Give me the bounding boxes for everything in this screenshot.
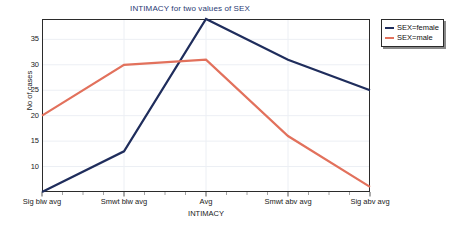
y-tick-label: 10 xyxy=(13,162,39,171)
y-tick-label: 15 xyxy=(13,136,39,145)
x-axis-ticks: Sig blw avgSmwt blw avgAvgSmwt abv avgSi… xyxy=(0,197,461,209)
plot-area xyxy=(42,19,370,192)
legend-item-male[interactable]: SEX=male xyxy=(385,33,439,43)
legend-swatch-female xyxy=(385,27,394,29)
legend-item-female[interactable]: SEX=female xyxy=(385,23,439,33)
x-tick-label: Smwt abv avg xyxy=(264,197,311,206)
legend-swatch-male xyxy=(385,37,394,39)
legend-label-female: SEX=female xyxy=(397,23,439,33)
x-tick-label: Sig blw avg xyxy=(23,197,61,206)
x-axis-label: INTIMACY xyxy=(42,209,370,218)
chart-container: INTIMACY for two values of SEX 101520253… xyxy=(0,0,461,231)
x-tick-label: Sig abv avg xyxy=(350,197,389,206)
x-tick-label: Smwt blw avg xyxy=(101,197,147,206)
legend-label-male: SEX=male xyxy=(397,33,433,43)
chart-title: INTIMACY for two values of SEX xyxy=(0,4,380,13)
legend: SEX=female SEX=male xyxy=(381,19,444,47)
x-tick-label: Avg xyxy=(200,197,213,206)
y-axis-label: No of cases xyxy=(25,51,34,131)
y-tick-label: 35 xyxy=(13,34,39,43)
